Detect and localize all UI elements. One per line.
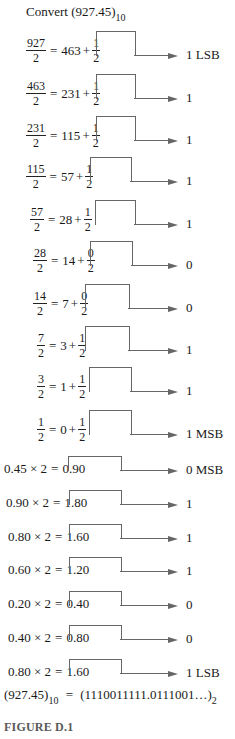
bracket-mask [68,565,71,572]
divisor: 2 [38,346,44,359]
arrow-head-icon [168,263,178,269]
bit-label: 1 LSB [186,665,220,681]
dividend: 115 [26,163,46,177]
equals-sign: = [51,461,58,477]
quotient: 14 [62,253,75,269]
bracket-mask [88,418,91,435]
arrow-line [130,434,170,435]
remainder: 1 [78,416,86,430]
bracket-line [90,241,133,266]
bracket-mask [89,249,92,266]
bracket-line [69,659,122,674]
remainder-divisor: 2 [85,220,91,233]
quotient: 28 [59,212,72,228]
dividend-fraction: 1152 [26,163,46,190]
bit-label: 1 [186,530,193,546]
title-text: Convert [26,4,68,19]
bit-label: 1 MSB [186,426,223,442]
bit-label: 0 [186,300,193,316]
division-equation: 282=14+02 [33,247,95,274]
title-value: (927.45) [71,4,115,19]
bracket-mask [95,124,98,141]
divisor: 2 [33,94,39,107]
plus-sign: + [71,296,78,312]
bracket-mask [84,292,87,309]
bracket-mask [95,82,98,99]
bracket-line [96,116,136,141]
bit-label: 1 LSB [186,47,220,63]
bit-label: 0 [186,597,193,613]
multiplication-lhs: 0.45 × 2 [4,461,47,477]
bracket-line [85,326,130,351]
quotient: 115 [61,128,80,144]
divisor: 2 [38,430,44,443]
arrow-head-icon [168,603,178,609]
bracket-line [68,456,122,471]
arrow-line [120,504,170,505]
plus-sign: + [69,338,76,354]
remainder-divisor: 2 [79,430,85,443]
arrow-line [131,265,170,266]
equals-sign: = [55,596,62,612]
bit-label: 1 [186,496,193,512]
bit-label: 1 [186,132,193,148]
bracket-mask [68,532,71,539]
equals-sign: = [50,169,57,185]
result-equation: (927.45)10 = (1110011111.0111001…)2 [4,687,217,703]
bit-label: 1 [186,90,193,106]
division-equation: 1152=57+12 [26,163,93,190]
remainder-fraction: 12 [78,416,86,443]
remainder: 1 [84,206,92,220]
figure-caption: FIGURE D.1 [4,720,73,735]
arrow-head-icon [168,569,178,575]
divisor: 2 [33,136,39,149]
plus-sign: + [69,379,76,395]
bracket-line [96,31,136,56]
dividend: 7 [37,332,45,346]
dividend: 927 [26,37,46,51]
arrow-line [128,308,170,309]
division-equation: 9272=463+12 [26,37,100,64]
dividend: 57 [30,206,44,220]
quotient: 0 [60,422,67,438]
equals-sign: = [53,495,60,511]
divisor: 2 [38,387,44,400]
bracket-line [95,200,136,225]
dividend-fraction: 4632 [26,80,46,107]
bracket-line [89,367,132,392]
equals-sign: = [48,212,55,228]
dividend-fraction: 2312 [26,122,46,149]
arrow-line [120,673,170,674]
bracket-line [89,410,132,435]
arrow-head-icon [168,53,178,59]
division-equation: 32=1+12 [37,373,86,400]
arrow-head-icon [168,671,178,677]
result-equals: = [66,687,73,702]
arrow-line [120,605,170,606]
bracket-mask [89,165,92,182]
plus-sign: + [82,128,89,144]
multiplication-lhs: 0.20 × 2 [8,596,51,612]
arrow-line [134,55,170,56]
divisor: 2 [33,51,39,64]
quotient: 3 [60,338,67,354]
arrow-head-icon [168,222,178,228]
dividend-fraction: 32 [37,373,45,400]
bracket-line [69,591,122,606]
arrow-head-icon [168,138,178,144]
bracket-mask [94,208,97,225]
bracket-line [85,284,130,309]
plus-sign: + [83,86,90,102]
dividend-fraction: 9272 [26,37,46,64]
multiplication-lhs: 0.90 × 2 [6,495,49,511]
bracket-line [69,557,122,572]
quotient: 231 [61,86,81,102]
dividend: 14 [33,290,47,304]
equals-sign: = [55,664,62,680]
remainder-divisor: 2 [79,387,85,400]
divisor: 2 [34,220,40,233]
divisor: 2 [33,177,39,190]
multiplication-lhs: 0.80 × 2 [8,664,51,680]
equals-sign: = [51,296,58,312]
dividend: 1 [37,416,45,430]
